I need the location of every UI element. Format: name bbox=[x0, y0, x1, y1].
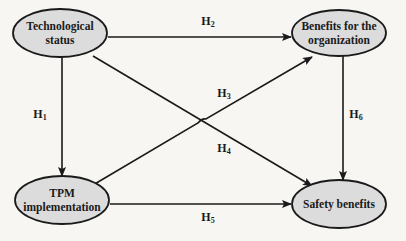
edge-label-h4: H4 bbox=[217, 141, 230, 156]
edge-label-base: H bbox=[217, 86, 226, 100]
node-label-line: status bbox=[26, 33, 93, 47]
edge-label-base: H bbox=[201, 210, 210, 224]
path-diagram: Technological status Benefits for the or… bbox=[0, 0, 406, 241]
node-label-line: TPM bbox=[23, 186, 100, 200]
node-label-line: Technological bbox=[26, 19, 93, 33]
node-label-line: Safety benefits bbox=[303, 197, 375, 211]
edge-label-h2: H2 bbox=[201, 14, 214, 29]
edge-label-sub: 4 bbox=[227, 147, 231, 156]
edge-label-h6: H6 bbox=[349, 107, 362, 122]
edge-label-h1: H1 bbox=[33, 107, 46, 122]
node-label-line: organization bbox=[301, 33, 376, 47]
edge-label-sub: 2 bbox=[211, 20, 215, 29]
edge-label-base: H bbox=[217, 141, 226, 155]
edge-label-sub: 3 bbox=[227, 92, 231, 101]
node-label-benefits-for-organization: Benefits for the organization bbox=[301, 19, 376, 47]
node-label-technological-status: Technological status bbox=[26, 19, 93, 47]
edge-label-base: H bbox=[201, 14, 210, 28]
edge-label-sub: 5 bbox=[211, 216, 215, 225]
node-label-line: Benefits for the bbox=[301, 19, 376, 33]
node-label-line: implementation bbox=[23, 200, 100, 214]
node-label-tpm-implementation: TPM implementation bbox=[23, 186, 100, 214]
node-label-safety-benefits: Safety benefits bbox=[303, 197, 375, 211]
edge-label-sub: 6 bbox=[359, 113, 363, 122]
edge-label-base: H bbox=[33, 107, 42, 121]
edge-label-base: H bbox=[349, 107, 358, 121]
edge-label-h3: H3 bbox=[217, 86, 230, 101]
edge-label-h5: H5 bbox=[201, 210, 214, 225]
edge-label-sub: 1 bbox=[43, 113, 47, 122]
